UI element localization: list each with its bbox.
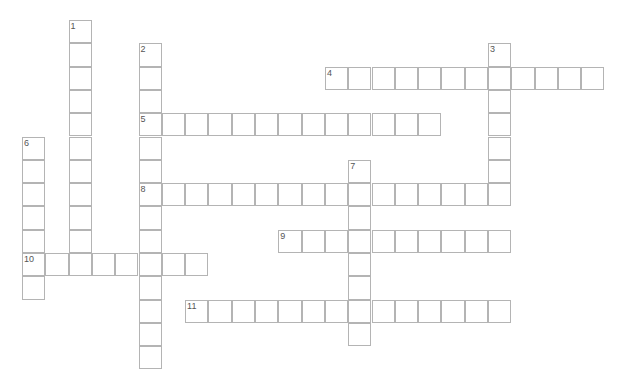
cell-input[interactable] (442, 301, 463, 322)
cell-input[interactable] (186, 114, 207, 135)
crossword-cell[interactable] (92, 253, 115, 276)
crossword-cell[interactable] (418, 230, 441, 253)
cell-input[interactable] (466, 184, 487, 205)
crossword-cell[interactable] (139, 230, 162, 253)
cell-input[interactable] (70, 68, 91, 89)
cell-input[interactable] (326, 114, 347, 135)
cell-input[interactable] (163, 254, 184, 275)
crossword-cell[interactable] (139, 160, 162, 183)
cell-input[interactable] (396, 114, 417, 135)
crossword-cell[interactable]: 1 (69, 20, 92, 43)
crossword-cell[interactable] (69, 90, 92, 113)
cell-input[interactable] (140, 161, 161, 182)
crossword-cell[interactable] (488, 113, 511, 136)
crossword-cell[interactable] (139, 346, 162, 369)
crossword-cell[interactable] (325, 183, 348, 206)
cell-input[interactable] (349, 277, 370, 298)
cell-input[interactable] (326, 231, 347, 252)
crossword-cell[interactable] (372, 230, 395, 253)
crossword-cell[interactable] (558, 67, 581, 90)
crossword-cell[interactable] (372, 183, 395, 206)
crossword-cell[interactable] (162, 253, 185, 276)
cell-input[interactable] (373, 184, 394, 205)
cell-input[interactable] (466, 231, 487, 252)
cell-input[interactable] (186, 254, 207, 275)
crossword-cell[interactable] (208, 183, 231, 206)
cell-input[interactable] (489, 68, 510, 89)
cell-input[interactable] (140, 324, 161, 345)
crossword-cell[interactable] (511, 67, 534, 90)
crossword-cell[interactable] (395, 67, 418, 90)
cell-input[interactable] (163, 184, 184, 205)
cell-input[interactable] (349, 184, 370, 205)
crossword-cell[interactable] (278, 113, 301, 136)
crossword-cell[interactable] (418, 183, 441, 206)
cell-input[interactable] (279, 231, 300, 252)
cell-input[interactable] (303, 231, 324, 252)
crossword-cell[interactable] (488, 300, 511, 323)
cell-input[interactable] (373, 301, 394, 322)
crossword-cell[interactable] (208, 300, 231, 323)
cell-input[interactable] (140, 347, 161, 368)
cell-input[interactable] (70, 21, 91, 42)
crossword-cell[interactable] (232, 113, 255, 136)
cell-input[interactable] (326, 68, 347, 89)
cell-input[interactable] (489, 301, 510, 322)
cell-input[interactable] (209, 184, 230, 205)
crossword-cell[interactable] (348, 67, 371, 90)
crossword-cell[interactable] (255, 300, 278, 323)
cell-input[interactable] (349, 324, 370, 345)
cell-input[interactable] (140, 277, 161, 298)
cell-input[interactable] (349, 231, 370, 252)
cell-input[interactable] (70, 138, 91, 159)
cell-input[interactable] (489, 231, 510, 252)
cell-input[interactable] (233, 114, 254, 135)
cell-input[interactable] (396, 301, 417, 322)
cell-input[interactable] (70, 91, 91, 112)
cell-input[interactable] (233, 301, 254, 322)
cell-input[interactable] (349, 207, 370, 228)
crossword-cell[interactable] (69, 160, 92, 183)
crossword-cell[interactable] (278, 300, 301, 323)
cell-input[interactable] (70, 184, 91, 205)
cell-input[interactable] (442, 68, 463, 89)
cell-input[interactable] (140, 91, 161, 112)
crossword-cell[interactable] (348, 300, 371, 323)
cell-input[interactable] (326, 301, 347, 322)
crossword-cell[interactable] (418, 300, 441, 323)
crossword-cell[interactable] (162, 183, 185, 206)
crossword-cell[interactable] (302, 113, 325, 136)
crossword-cell[interactable] (69, 206, 92, 229)
crossword-cell[interactable] (69, 253, 92, 276)
crossword-cell[interactable]: 7 (348, 160, 371, 183)
cell-input[interactable] (70, 254, 91, 275)
crossword-cell[interactable] (465, 230, 488, 253)
cell-input[interactable] (70, 161, 91, 182)
cell-input[interactable] (489, 114, 510, 135)
cell-input[interactable] (93, 254, 114, 275)
crossword-cell[interactable] (185, 183, 208, 206)
crossword-cell[interactable] (302, 230, 325, 253)
crossword-cell[interactable] (69, 43, 92, 66)
crossword-cell[interactable] (418, 113, 441, 136)
cell-input[interactable] (536, 68, 557, 89)
crossword-cell[interactable] (488, 160, 511, 183)
crossword-cell[interactable] (22, 276, 45, 299)
crossword-cell[interactable] (348, 230, 371, 253)
cell-input[interactable] (419, 68, 440, 89)
crossword-cell[interactable] (395, 230, 418, 253)
crossword-cell[interactable] (372, 67, 395, 90)
crossword-cell[interactable] (22, 230, 45, 253)
crossword-cell[interactable] (488, 230, 511, 253)
cell-input[interactable] (512, 68, 533, 89)
crossword-cell[interactable]: 11 (185, 300, 208, 323)
cell-input[interactable] (559, 68, 580, 89)
crossword-cell[interactable] (441, 230, 464, 253)
cell-input[interactable] (140, 68, 161, 89)
crossword-cell[interactable] (372, 113, 395, 136)
crossword-cell[interactable] (162, 113, 185, 136)
crossword-cell[interactable] (302, 183, 325, 206)
cell-input[interactable] (140, 231, 161, 252)
crossword-cell[interactable] (465, 300, 488, 323)
crossword-cell[interactable] (348, 253, 371, 276)
